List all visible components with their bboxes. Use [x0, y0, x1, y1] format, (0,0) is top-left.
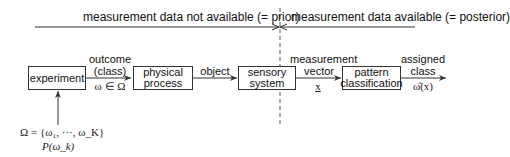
assigned-line1: assigned	[400, 53, 446, 65]
assigned-class-math: ω̂(x)	[400, 80, 446, 92]
measurement-line2: vector	[290, 65, 348, 77]
outcome-line1: outcome	[88, 53, 132, 65]
outcome-label: outcome (class)	[88, 53, 132, 77]
pattern-classification-block: pattern classification	[342, 66, 401, 90]
experiment-label: experiment	[30, 73, 84, 84]
physical-process-block: physical process	[133, 66, 193, 90]
measurement-vector-math: x	[303, 80, 333, 92]
posterior-label: measurement data available (= posterior)	[291, 11, 510, 23]
object-label: object	[193, 65, 237, 77]
pattern-classification-line2: classification	[340, 78, 402, 89]
experiment-block: experiment	[28, 66, 86, 90]
measurement-line1: measurement	[290, 53, 348, 65]
measurement-vector-label: measurement vector	[290, 53, 348, 77]
outcome-math: ω ∈ Ω	[88, 80, 132, 93]
physical-process-line2: process	[144, 78, 183, 89]
sensory-system-line2: system	[250, 78, 285, 89]
class-set-definition: Ω = {ω₁, ···, ω_K}	[20, 126, 104, 138]
outcome-line2: (class)	[88, 65, 132, 77]
assigned-line2: class	[400, 65, 446, 77]
assigned-class-label: assigned class	[400, 53, 446, 77]
prior-probability: P(ω_k)	[42, 140, 74, 152]
prior-label: measurement data not available (= prior)	[83, 11, 299, 23]
sensory-system-block: sensory system	[238, 66, 296, 90]
